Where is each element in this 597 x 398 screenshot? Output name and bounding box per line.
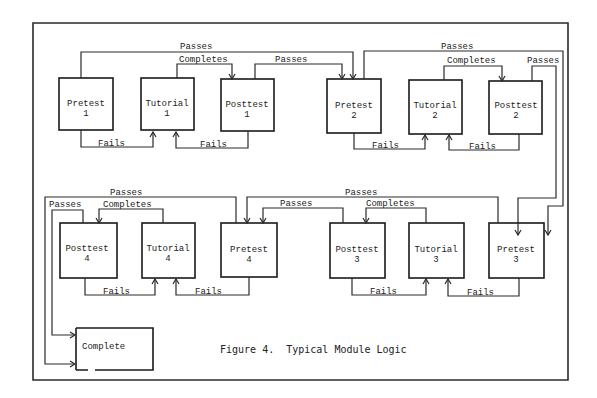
node-posttest-2: Posttest 2 (489, 81, 542, 134)
edge-label-passes: Passes (110, 188, 142, 198)
node-number: 3 (433, 255, 438, 265)
node-tutorial-2: Tutorial 2 (409, 80, 462, 134)
edge-label-fails: Fails (103, 287, 130, 297)
node-number: 4 (165, 254, 170, 264)
node-number: 1 (244, 110, 249, 120)
node-pretest-2: Pretest 2 (327, 79, 381, 133)
edge-label-fails: Fails (200, 140, 227, 150)
node-number: 2 (513, 111, 518, 121)
edge-label-fails: Fails (469, 142, 496, 152)
edge-label-passes: Passes (441, 42, 473, 52)
node-posttest-1: Posttest 1 (221, 79, 274, 131)
node-tutorial-4: Tutorial 4 (142, 223, 195, 278)
figure-caption: Figure 4. Typical Module Logic (220, 344, 407, 355)
node-title: Pretest (335, 101, 373, 111)
node-pretest-1: Pretest 1 (59, 78, 113, 130)
node-number: 4 (84, 254, 89, 264)
node-number: 3 (513, 255, 518, 265)
node-title: Complete (82, 342, 125, 352)
module-logic-diagram: Pretest 1 Tutorial 1 Posttest 1 Pretest … (0, 0, 597, 398)
edge-label-passes: Passes (527, 56, 559, 66)
edge-label-completes: Completes (447, 56, 496, 66)
edge-label-fails: Fails (467, 288, 494, 298)
node-title: Pretest (230, 245, 268, 255)
node-title: Tutorial (413, 101, 456, 111)
node-title: Pretest (67, 99, 105, 109)
node-pretest-3: Pretest 3 (489, 223, 544, 278)
node-number: 4 (246, 255, 251, 265)
node-posttest-4: Posttest 4 (60, 223, 117, 278)
node-number: 1 (83, 109, 88, 119)
node-tutorial-3: Tutorial 3 (409, 223, 464, 278)
edge-label-completes: Completes (179, 55, 228, 65)
node-title: Tutorial (414, 245, 457, 255)
node-posttest-3: Posttest 3 (330, 223, 385, 278)
node-title: Posttest (65, 244, 108, 254)
node-title: Tutorial (146, 244, 189, 254)
edge-label-completes: Completes (103, 200, 152, 210)
edge-label-passes: Passes (275, 55, 307, 65)
edge-label-fails: Fails (370, 287, 397, 297)
edge-label-passes: Passes (180, 42, 212, 52)
node-title: Posttest (335, 245, 378, 255)
edge-label-passes: Passes (49, 200, 81, 210)
node-number: 2 (432, 111, 437, 121)
node-number: 2 (351, 111, 356, 121)
node-complete: Complete (76, 328, 153, 370)
node-number: 1 (164, 109, 169, 119)
edge-label-passes: Passes (280, 199, 312, 209)
edge-label-fails: Fails (195, 287, 222, 297)
edge-label-completes: Completes (366, 199, 415, 209)
node-title: Posttest (225, 100, 268, 110)
edge-label-fails: Fails (372, 141, 399, 151)
node-title: Pretest (497, 245, 535, 255)
edge-label-passes: Passes (345, 188, 377, 198)
node-number: 3 (354, 255, 359, 265)
edge-label-fails: Fails (98, 139, 125, 149)
node-pretest-4: Pretest 4 (221, 223, 277, 277)
node-tutorial-1: Tutorial 1 (141, 78, 194, 130)
node-title: Posttest (494, 101, 537, 111)
node-title: Tutorial (145, 99, 188, 109)
